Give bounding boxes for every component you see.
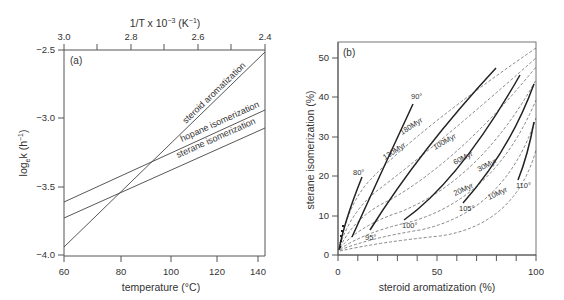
x-ticks [338,255,536,261]
y-tick-label: −3.5 [36,181,55,192]
label-180Myr: 180Myr [398,115,424,136]
label-80: 80° [353,168,364,177]
y-axis-title: logek (h−1) [17,130,31,177]
label-105: 105° [459,204,475,213]
y-tick-label: −2.5 [36,44,55,55]
label-110: 110° [516,181,531,190]
y-tick-label: 50 [318,52,329,63]
isochron-30Myr [340,100,536,249]
figure: −2.5 −3.0 −3.5 −4.0 60 80 100 120 140 3.… [0,0,564,300]
x-tick-label: 80 [116,266,127,277]
label-100Myr: 100Myr [432,131,459,152]
x-tick-label: 120 [209,266,225,277]
isochron-130Myr [340,58,536,245]
panel-a: −2.5 −3.0 −3.5 −4.0 60 80 100 120 140 3.… [17,17,272,293]
x-axis-title: steroid aromatization (%) [379,281,496,293]
label-90: 90° [411,92,422,101]
top-tick-label: 2.4 [258,31,271,42]
top-axis-title: 1/T x 10−3 (K−1) [130,17,201,29]
x-axis-title: temperature (°C) [122,281,200,293]
label-20Myr: 20Myr [452,181,475,198]
top-tick-label: 2.8 [124,31,137,42]
panel-label-a: (a) [70,55,82,66]
isotherms [339,68,534,250]
isotherm-110 [518,122,534,180]
x-tick-label: 100 [528,266,544,277]
panel-b: 0 10 20 30 40 50 0 50 100 steroid aromat… [304,42,544,293]
x-tick-label: 0 [335,266,340,277]
panel-label-b: (b) [343,47,355,58]
label-95: 95° [365,233,376,242]
y-tick-label: 20 [318,170,329,181]
isochron-20Myr [340,118,536,250]
x-tick-label: 60 [59,266,70,277]
y-tick-label: −3.0 [36,112,55,123]
isochron-60Myr [340,80,536,248]
x-tick-label: 100 [163,266,179,277]
y-tick-label: 0 [324,249,329,260]
series-steroid-aromatization [64,52,265,247]
y-tick-label: 10 [318,210,329,221]
y-axis-title: sterane isomerization (%) [304,90,316,209]
y-tick-label: 30 [318,131,329,142]
series-sterane-isomerization [64,128,265,218]
x-tick-label: 140 [250,266,266,277]
y-tick-label: 40 [318,91,329,102]
label-60Myr: 60Myr [452,149,475,167]
label-30Myr: 30Myr [476,156,499,174]
x-tick-label: 50 [432,266,443,277]
y-tick-label: −4.0 [36,249,55,260]
top-tick-label: 3.0 [57,31,70,42]
top-tick-label: 2.6 [191,31,204,42]
isochron-100Myr [340,67,536,247]
label-10Myr: 10Myr [486,185,509,202]
label-100: 100° [402,221,418,230]
